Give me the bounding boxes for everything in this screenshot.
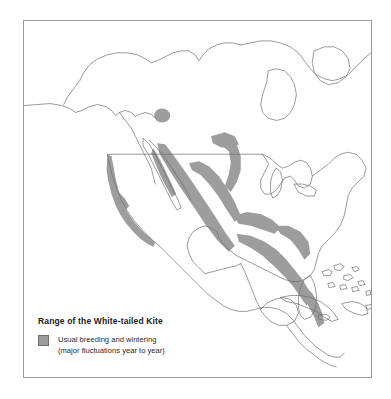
map-legend: Range of the White-tailed Kite Usual bre… (38, 316, 248, 356)
coastline-bahamas-3 (344, 275, 353, 281)
range-area-pacific-coast (107, 154, 156, 246)
coastline-antilles-1 (358, 281, 365, 286)
coastline-canada-arctic (241, 41, 371, 81)
coastline-bahamas-4 (352, 267, 359, 272)
legend-swatch-usual-range (38, 335, 49, 346)
coastline-bahamas-1 (322, 270, 332, 276)
coastline-lesser-antilles (366, 290, 371, 295)
coastline-central-america-pacific (286, 325, 336, 367)
legend-label-line-1: Usual breeding and wintering (58, 335, 156, 344)
legend-entry-breeding-wintering: Usual breeding and wintering (major fluc… (38, 334, 248, 356)
coastline-antilles-2 (352, 287, 359, 292)
coastline-hudson-bay (261, 69, 297, 121)
legend-entry-label: Usual breeding and wintering (major fluc… (58, 334, 165, 356)
coastline-hispaniola (342, 301, 368, 315)
coastline-usa-east (292, 152, 366, 281)
border-rio-grande (205, 264, 241, 274)
range-area-yucatan-isthmus (233, 212, 281, 234)
legend-label-line-2: (major fluctuations year to year) (58, 346, 165, 355)
coastline-lake-michigan (271, 168, 283, 198)
legend-title: Range of the White-tailed Kite (38, 316, 248, 326)
coastline-alaska-north (64, 43, 241, 105)
coastline-yucatan (261, 297, 299, 325)
coastline-antilles-4 (328, 283, 335, 288)
coastline-lake-erie-ontario (294, 184, 316, 196)
coastline-alaska-panhandle (119, 112, 155, 184)
coastline-mexico-gulf (241, 264, 261, 310)
range-map-figure: Range of the White-tailed Kite Usual bre… (0, 0, 391, 399)
range-area-south-texas (211, 132, 239, 148)
coastline-baffin (312, 47, 350, 85)
coastline-alaska (24, 104, 156, 119)
coastline-great-lakes-region (261, 154, 313, 194)
coastline-antilles-3 (340, 285, 347, 290)
coastline-bahamas-2 (334, 264, 344, 271)
range-shading-group (107, 109, 325, 328)
range-area-arizona-spot (154, 109, 170, 123)
